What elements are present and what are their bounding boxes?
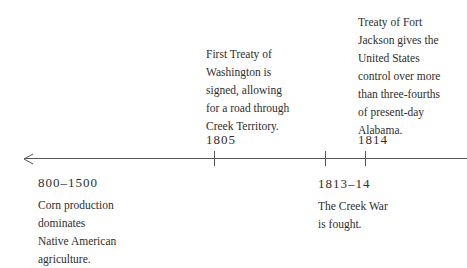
event-line: control over more <box>358 67 440 85</box>
year-label-1814: 1814 <box>358 132 388 148</box>
event-line: Jackson gives the <box>358 31 440 49</box>
event-line: United States <box>358 49 440 67</box>
year-label-800-1500: 800–1500 <box>38 175 98 191</box>
event-line: dominates <box>38 214 116 232</box>
year-label-1813-14: 1813–14 <box>318 176 371 192</box>
arrow-left-icon <box>22 153 34 165</box>
event-line: of present-day <box>358 103 440 121</box>
event-line: is fought. <box>318 215 388 233</box>
event-line: than three-fourths <box>358 85 440 103</box>
event-line: Native American <box>38 232 116 250</box>
event-line: for a road through <box>206 99 289 117</box>
tick-1805 <box>214 151 215 166</box>
event-line: Treaty of Fort <box>358 13 440 31</box>
tick-1814 <box>365 151 366 166</box>
event-1805-description: First Treaty of Washington is signed, al… <box>206 45 289 135</box>
event-800-1500-description: Corn production dominates Native America… <box>38 196 116 268</box>
event-line: agriculture. <box>38 250 116 268</box>
event-1814-description: Treaty of Fort Jackson gives the United … <box>358 13 440 139</box>
event-line: Washington is <box>206 63 289 81</box>
year-label-1805: 1805 <box>206 132 236 148</box>
event-line: signed, allowing <box>206 81 289 99</box>
event-line: The Creek War <box>318 197 388 215</box>
event-1813-14-description: The Creek War is fought. <box>318 197 388 233</box>
timeline-axis <box>24 158 467 159</box>
event-line: Corn production <box>38 196 116 214</box>
tick-1813-14 <box>325 151 326 166</box>
event-line: First Treaty of <box>206 45 289 63</box>
